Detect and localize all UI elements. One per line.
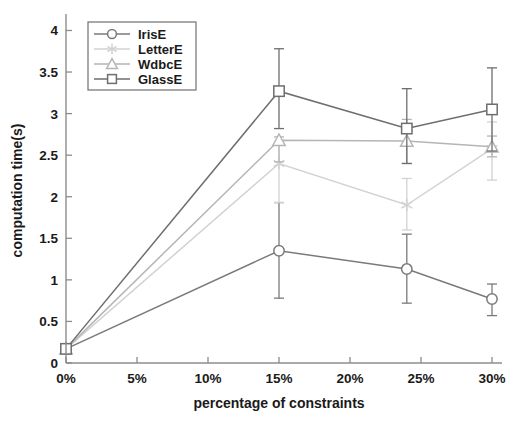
y-tick-label: 0 — [50, 356, 58, 371]
data-point-asterisk — [401, 199, 412, 211]
y-tick-label: 4 — [50, 23, 58, 38]
data-point-circle — [108, 30, 117, 39]
data-point-square — [402, 123, 412, 133]
y-tick-label: 0.5 — [39, 314, 58, 329]
data-point-circle — [487, 294, 497, 304]
x-tick-label: 20% — [336, 371, 363, 386]
x-tick-label: 5% — [127, 371, 147, 386]
y-axis-title: computation time(s) — [9, 124, 25, 258]
x-tick-label: 15% — [265, 371, 292, 386]
data-point-circle — [274, 246, 284, 256]
y-tick-label: 2 — [50, 190, 58, 205]
legend-label: WdbcE — [138, 57, 182, 72]
y-tick-label: 2.5 — [39, 148, 58, 163]
chart-svg: 00.511.522.533.540%5%10%15%20%25%30%perc… — [0, 0, 527, 422]
legend-layer: IrisELetterEWdbcEGlassE — [88, 22, 196, 90]
legend-label: GlassE — [138, 72, 182, 87]
y-tick-label: 1 — [50, 273, 58, 288]
legend-label: LetterE — [138, 42, 183, 57]
legend-label: IrisE — [138, 27, 167, 42]
x-tick-label: 10% — [194, 371, 221, 386]
x-tick-label: 0% — [56, 371, 76, 386]
y-tick-label: 3.5 — [39, 65, 58, 80]
x-tick-label: 25% — [407, 371, 434, 386]
axis-layer: 00.511.522.533.540%5%10%15%20%25%30%perc… — [9, 14, 506, 411]
series-layer — [60, 49, 498, 355]
data-point-square — [108, 75, 117, 84]
y-tick-label: 3 — [50, 107, 58, 122]
y-tick-label: 1.5 — [39, 231, 58, 246]
series-IrisE — [61, 203, 497, 355]
data-point-square — [274, 86, 284, 96]
chart-container: 00.511.522.533.540%5%10%15%20%25%30%perc… — [0, 0, 527, 422]
x-tick-label: 30% — [478, 371, 505, 386]
x-axis-title: percentage of constraints — [193, 395, 364, 411]
data-point-square — [487, 104, 497, 114]
data-point-circle — [402, 264, 412, 274]
